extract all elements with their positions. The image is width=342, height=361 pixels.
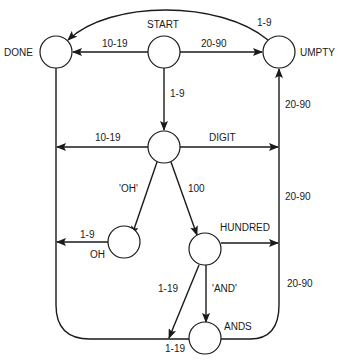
label-oh: OH — [90, 249, 105, 260]
edge-digit-hundred — [171, 162, 197, 235]
edge-label-digit-hundred: 100 — [188, 183, 205, 194]
label-umpty: UMPTY — [300, 47, 335, 58]
node-umpty — [263, 36, 295, 68]
node-oh — [108, 226, 140, 258]
edge-label-ands-done: 1-19 — [165, 343, 185, 354]
edge-label-start-done: 10-19 — [102, 38, 128, 49]
edge-label-hundred-ands: 'AND' — [212, 283, 237, 294]
label-start: START — [147, 19, 179, 30]
edge-label-umpty-in-3: 20-90 — [287, 278, 313, 289]
edge-label-hundred-done: 1-19 — [158, 283, 178, 294]
node-ands — [189, 322, 221, 354]
edge-label-start-umpty: 20-90 — [201, 38, 227, 49]
edge-label-umpty-done: 1-9 — [257, 17, 272, 28]
edge-label-oh-done: 1-9 — [80, 229, 95, 240]
edge-digit-oh — [132, 162, 157, 235]
state-diagram: START DONE UMPTY DIGIT OH HUNDRED ANDS 1… — [0, 0, 342, 361]
label-digit: DIGIT — [209, 132, 236, 143]
edge-umpty-trunk — [221, 69, 279, 339]
edge-label-digit-oh: 'OH' — [119, 183, 138, 194]
node-done — [40, 36, 72, 68]
edge-ands-done-trunk — [56, 68, 189, 339]
node-digit — [148, 131, 180, 163]
label-ands: ANDS — [224, 321, 252, 332]
edge-label-start-digit: 1-9 — [170, 88, 185, 99]
node-start — [148, 36, 180, 68]
label-hundred: HUNDRED — [220, 222, 270, 233]
edge-label-umpty-in-2: 20-90 — [285, 191, 311, 202]
node-hundred — [189, 233, 221, 265]
edge-label-digit-done: 10-19 — [95, 132, 121, 143]
label-done: DONE — [4, 47, 33, 58]
edge-label-umpty-in-1: 20-90 — [285, 99, 311, 110]
